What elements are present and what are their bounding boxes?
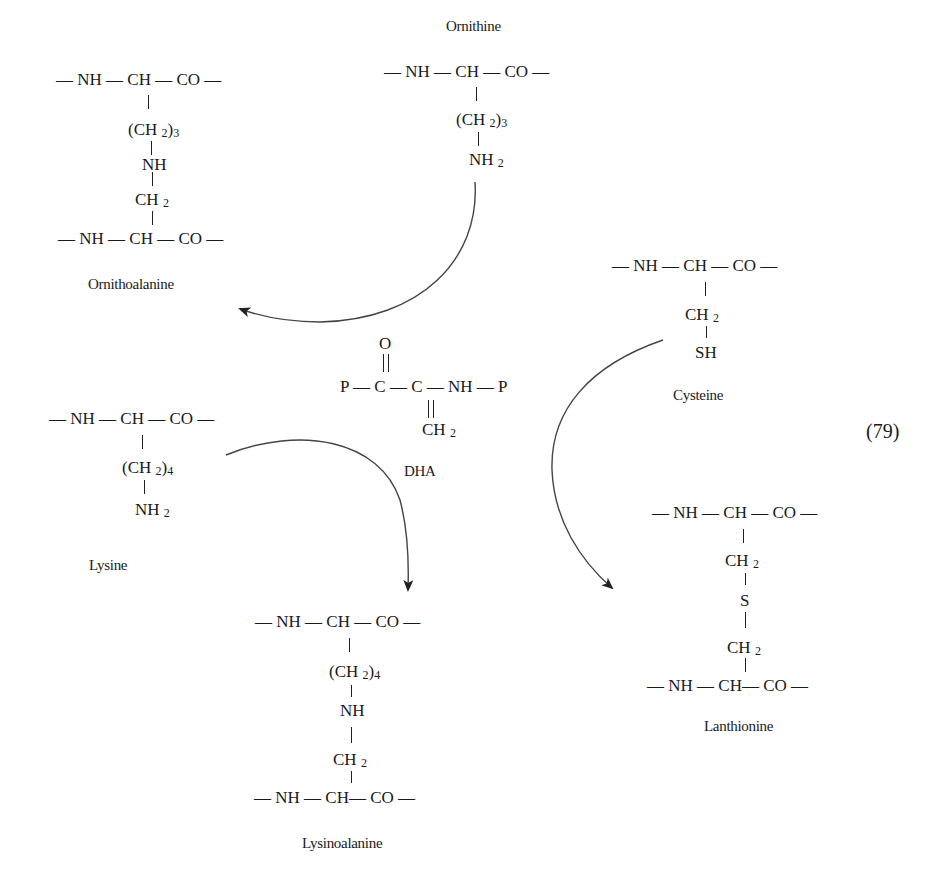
dha-oxygen: O <box>379 334 391 354</box>
cysteine-backbone: — NH — CH — CO — <box>612 256 777 276</box>
bond <box>705 282 706 296</box>
bond <box>478 132 479 146</box>
bond <box>144 480 145 494</box>
dha-label: DHA <box>404 462 436 480</box>
lysinoalanine-label: Lysinoalanine <box>302 834 382 852</box>
bond <box>142 435 143 449</box>
bond <box>151 141 152 155</box>
double-bond <box>428 400 434 418</box>
lysinoalanine-nh: NH <box>340 701 365 721</box>
lysinoalanine-backbone-top: — NH — CH — CO — <box>255 612 420 632</box>
equation-number: (79) <box>866 420 899 442</box>
bond <box>152 211 153 225</box>
ornithoalanine-nh: NH <box>142 155 167 175</box>
lysinoalanine-side-chain-1: (CH 2)4 <box>329 662 380 685</box>
cysteine-label: Cysteine <box>673 386 723 404</box>
bond <box>476 87 477 101</box>
lanthionine-backbone-bottom: — NH — CH— CO — <box>647 676 808 696</box>
bond <box>351 685 352 697</box>
bond <box>351 727 352 743</box>
lysine-side-chain-1: (CH 2)4 <box>122 458 173 481</box>
bond <box>148 95 149 109</box>
lysine-amine: NH 2 <box>135 500 170 523</box>
bond <box>745 612 746 628</box>
ornithoalanine-label: Ornithoalanine <box>88 275 174 293</box>
lanthionine-label: Lanthionine <box>704 717 773 735</box>
bond <box>745 658 746 672</box>
arrow-ornithine-to-ornithoalanine <box>240 182 475 322</box>
ornithoalanine-backbone-top: — NH — CH — CO — <box>56 70 221 90</box>
bond <box>351 771 352 783</box>
cysteine-thiol: SH <box>695 343 717 363</box>
ornithine-amine: NH 2 <box>469 150 504 173</box>
lanthionine-ch2-top: CH 2 <box>725 551 759 574</box>
lanthionine-ch2-bottom: CH 2 <box>727 638 761 661</box>
lanthionine-sulfur: S <box>740 591 749 611</box>
lysine-backbone: — NH — CH — CO — <box>49 409 214 429</box>
double-bond <box>383 354 389 372</box>
ornithoalanine-backbone-bottom: — NH — CH — CO — <box>58 229 223 249</box>
lysine-label: Lysine <box>89 556 127 574</box>
bond <box>743 529 744 543</box>
arrow-lysine-to-lysinoalanine <box>226 440 408 590</box>
bond <box>152 172 153 186</box>
bond <box>745 573 746 585</box>
ornithoalanine-ch2: CH 2 <box>135 190 169 213</box>
ornithine-backbone: — NH — CH — CO — <box>384 62 549 82</box>
dha-methylene: CH 2 <box>422 420 456 443</box>
arrow-cysteine-to-lanthionine <box>552 340 663 588</box>
lysinoalanine-backbone-bottom: — NH — CH— CO — <box>254 788 415 808</box>
dha-chain: P — C — C — NH — P <box>340 377 508 397</box>
lysinoalanine-ch2: CH 2 <box>333 750 367 773</box>
cysteine-ch2: CH 2 <box>685 305 719 328</box>
ornithoalanine-side-chain-1: (CH 2)3 <box>128 120 179 143</box>
ornithine-side-chain-1: (CH 2)3 <box>456 110 507 133</box>
bond <box>349 638 350 652</box>
ornithine-label: Ornithine <box>446 17 501 35</box>
lanthionine-backbone-top: — NH — CH — CO — <box>652 503 817 523</box>
bond <box>706 326 707 338</box>
